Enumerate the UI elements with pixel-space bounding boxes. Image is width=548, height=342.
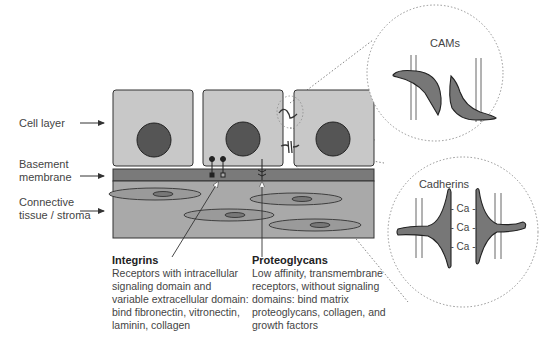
integrins-caption: Integrins Receptors with intracellular s… — [112, 254, 249, 332]
integrins-title: Integrins — [112, 254, 249, 267]
integrins-desc-line: Receptors with intracellular — [112, 267, 249, 280]
cadherins-title: Cadherins — [419, 178, 470, 190]
integrins-desc-line: variable extracellular domain: — [112, 293, 249, 306]
ca-ion-label-1: - Ca - — [451, 203, 476, 214]
basement-membrane-label-line2: membrane — [19, 171, 72, 184]
proteoglycans-caption: Proteoglycans Low affinity, transmembran… — [252, 254, 386, 332]
proteoglycans-desc-line: growth factors — [252, 319, 386, 332]
integrins-desc-line: bind fibronectin, vitronectin, — [112, 306, 249, 319]
basement-membrane — [113, 169, 374, 181]
ca-ion-label-3: - Ca - — [451, 241, 476, 252]
nucleus — [137, 123, 171, 157]
basement-membrane-label-line1: Basement — [19, 158, 72, 171]
ca-ion-label-2: - Ca - — [451, 222, 476, 233]
cell-3 — [294, 90, 374, 166]
cadherins-inset: Cadherins - Ca - - Ca - - Ca - — [388, 157, 538, 307]
proteoglycans-desc-line: receptors, without signaling — [252, 280, 386, 293]
integrins-desc-line: signaling domain and — [112, 280, 249, 293]
nucleus — [226, 122, 260, 156]
cell-2 — [203, 90, 283, 166]
cell-1 — [113, 90, 193, 166]
nucleus — [316, 122, 350, 156]
connective-tissue-label-line2: tissue / stroma — [19, 209, 91, 222]
cell-layer-label: Cell layer — [19, 117, 65, 130]
proteoglycans-desc-line: proteoglycans, collagen, and — [252, 306, 386, 319]
cams-title: CAMs — [430, 37, 460, 49]
basement-membrane-label: Basement membrane — [19, 158, 72, 184]
connective-tissue-label-line1: Connective — [19, 196, 91, 209]
proteoglycans-desc-line: Low affinity, transmembrane — [252, 267, 386, 280]
proteoglycans-title: Proteoglycans — [252, 254, 386, 267]
proteoglycans-desc-line: domains: bind matrix — [252, 293, 386, 306]
cams-inset: CAMs — [367, 5, 503, 141]
connective-tissue-label: Connective tissue / stroma — [19, 196, 91, 222]
integrins-desc-line: laminin, collagen — [112, 319, 249, 332]
